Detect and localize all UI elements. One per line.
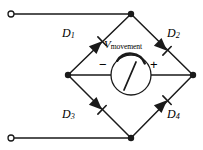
meter-voltage-symbol: V bbox=[104, 38, 111, 50]
polarity-negative-sign: − bbox=[99, 58, 107, 71]
meter-voltage-label: Vmovement bbox=[104, 39, 142, 51]
meter-voltage-subscript: movement bbox=[111, 42, 142, 51]
node-right-dot bbox=[190, 72, 196, 78]
node-bottom-dot bbox=[128, 135, 134, 141]
diode-label-d4-subscript: 4 bbox=[176, 112, 180, 121]
diode-label-d4: D4 bbox=[167, 108, 180, 122]
diode-label-d3-subscript: 3 bbox=[71, 112, 75, 121]
diode-label-d1-letter: D bbox=[62, 26, 71, 40]
polarity-positive-sign: + bbox=[150, 58, 158, 71]
terminal-bottom-icon bbox=[8, 135, 14, 141]
bridge-rectifier-schematic bbox=[0, 0, 203, 150]
diode-label-d2: D2 bbox=[167, 27, 180, 41]
node-top-dot bbox=[128, 11, 134, 17]
diode-label-d1-subscript: 1 bbox=[71, 31, 75, 40]
diode-label-d4-letter: D bbox=[167, 107, 176, 121]
diode-label-d1: D1 bbox=[62, 27, 75, 41]
figure-canvas: D1 D2 D3 D4 Vmovement − + bbox=[0, 0, 203, 150]
diode-label-d2-letter: D bbox=[167, 26, 176, 40]
terminal-top-icon bbox=[8, 11, 14, 17]
diode-label-d3: D3 bbox=[62, 108, 75, 122]
node-left-dot bbox=[65, 72, 71, 78]
diode-label-d3-letter: D bbox=[62, 107, 71, 121]
meter-movement bbox=[111, 54, 151, 95]
diode-label-d2-subscript: 2 bbox=[176, 31, 180, 40]
